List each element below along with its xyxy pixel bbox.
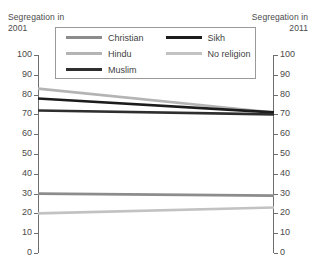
right-tick-0 [274, 253, 278, 254]
legend-label: Muslim [108, 65, 137, 75]
legend-item-christian[interactable]: Christian [56, 30, 156, 46]
right-tick-10 [274, 233, 278, 234]
left-tick-label-10: 10 [22, 228, 32, 237]
right-tick-70 [274, 114, 278, 115]
legend-item-no-religion[interactable]: No religion [156, 46, 256, 62]
right-axis-caption: Segregation in 2011 [252, 12, 308, 34]
legend-item-hindu[interactable]: Hindu [56, 46, 156, 62]
right-tick-label-30: 30 [280, 189, 290, 198]
series-lines [38, 55, 274, 253]
right-tick-20 [274, 213, 278, 214]
right-tick-label-20: 20 [280, 208, 290, 217]
legend-label: Hindu [108, 49, 132, 59]
right-tick-label-40: 40 [280, 169, 290, 178]
right-axis-caption-line2: 2011 [252, 23, 308, 34]
right-tick-label-10: 10 [280, 228, 290, 237]
right-tick-label-70: 70 [280, 109, 290, 118]
left-tick-label-30: 30 [22, 189, 32, 198]
legend-item-sikh[interactable]: Sikh [156, 30, 256, 46]
left-axis-caption-line1: Segregation in [8, 12, 64, 22]
left-tick-0 [34, 253, 38, 254]
right-tick-label-80: 80 [280, 90, 290, 99]
right-tick-label-100: 100 [280, 50, 295, 59]
right-tick-80 [274, 95, 278, 96]
right-tick-label-90: 90 [280, 70, 290, 79]
right-tick-60 [274, 134, 278, 135]
right-tick-30 [274, 194, 278, 195]
right-axis-caption-line1: Segregation in [252, 12, 308, 22]
chart-page: Segregation in 2001 Segregation in 2011 … [0, 0, 314, 275]
left-tick-label-70: 70 [22, 109, 32, 118]
left-tick-label-0: 0 [27, 248, 32, 257]
legend-swatch-icon [66, 68, 102, 71]
legend-swatch-icon [166, 52, 202, 55]
legend-label: Christian [108, 33, 144, 43]
left-tick-label-40: 40 [22, 169, 32, 178]
legend-item-muslim[interactable]: Muslim [56, 62, 156, 78]
right-tick-label-50: 50 [280, 149, 290, 158]
left-tick-label-50: 50 [22, 149, 32, 158]
legend-swatch-icon [166, 36, 202, 39]
left-tick-label-100: 100 [17, 50, 32, 59]
legend-grid: ChristianSikhHinduNo religionMuslim [56, 28, 255, 78]
right-tick-100 [274, 55, 278, 56]
left-tick-label-80: 80 [22, 90, 32, 99]
right-tick-label-0: 0 [280, 248, 285, 257]
right-tick-90 [274, 75, 278, 76]
legend-swatch-icon [66, 36, 102, 39]
legend-swatch-icon [66, 52, 102, 55]
left-tick-label-20: 20 [22, 208, 32, 217]
chart-legend: ChristianSikhHinduNo religionMuslim [55, 27, 256, 79]
legend-label: Sikh [208, 33, 226, 43]
series-line-christian [38, 194, 274, 196]
right-tick-40 [274, 174, 278, 175]
series-line-no-religion [38, 207, 274, 213]
right-tick-50 [274, 154, 278, 155]
right-tick-label-60: 60 [280, 129, 290, 138]
plot-area: 0102030405060708090100 01020304050607080… [38, 55, 274, 253]
left-tick-label-90: 90 [22, 70, 32, 79]
left-tick-label-60: 60 [22, 129, 32, 138]
legend-label: No religion [208, 49, 251, 59]
